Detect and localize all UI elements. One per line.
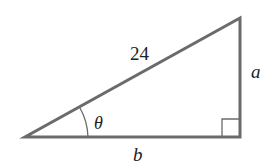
adjacent-side-label: b bbox=[133, 144, 143, 165]
opposite-side-label: a bbox=[251, 61, 261, 82]
hypotenuse-label: 24 bbox=[130, 43, 150, 64]
triangle bbox=[25, 18, 240, 137]
angle-label: θ bbox=[94, 113, 103, 133]
right-triangle-diagram: 24 a θ b bbox=[0, 0, 275, 168]
right-angle-marker bbox=[222, 119, 240, 137]
angle-arc bbox=[80, 108, 88, 137]
